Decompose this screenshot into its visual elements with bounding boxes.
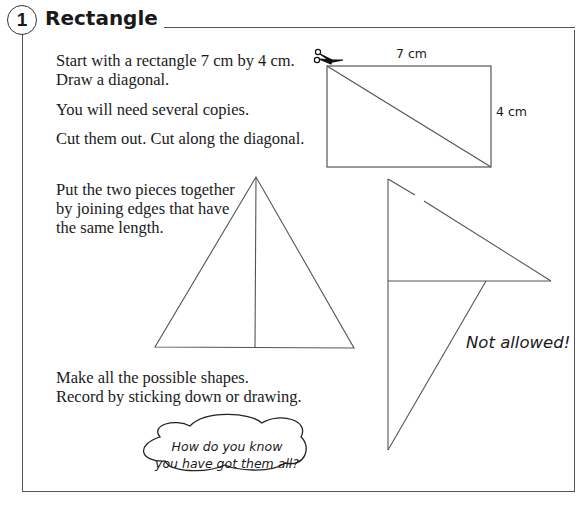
not-allowed-label: Not allowed! [466, 333, 570, 352]
width-label: 7 cm [396, 46, 427, 61]
thought-bubble-text: How do you know you have got them all? [142, 438, 312, 472]
height-label: 4 cm [496, 104, 527, 119]
scissors-icon [314, 49, 343, 64]
allowed-shape-triangle [155, 177, 354, 348]
rectangle-diagram [327, 66, 491, 167]
bubble-line: How do you know [142, 438, 312, 455]
diagrams [0, 0, 588, 505]
bubble-line: you have got them all? [142, 455, 312, 472]
not-allowed-shape [388, 179, 551, 450]
